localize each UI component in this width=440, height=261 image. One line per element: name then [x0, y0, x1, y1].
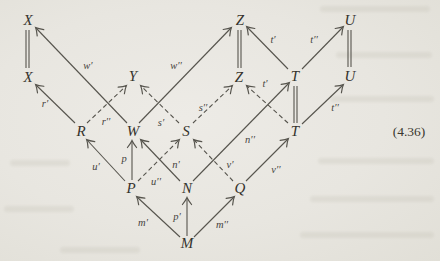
node-q: Q [235, 181, 246, 196]
node-z-mid: Z [235, 70, 243, 85]
node-u-mid: U [345, 69, 356, 84]
node-p: P [126, 181, 135, 196]
label-n-dblprime: n′′ [245, 135, 255, 146]
equality-u [348, 30, 351, 67]
equation-number: (4.36) [393, 125, 426, 139]
node-y: Y [129, 69, 137, 84]
arrow-w-prime [36, 28, 127, 123]
node-s: S [182, 124, 190, 139]
label-n-prime: n′ [172, 160, 180, 171]
node-m: M [181, 236, 194, 251]
node-n: N [182, 181, 192, 196]
arrow-t-dblprime-upper [302, 27, 343, 69]
equality-t [294, 86, 297, 123]
label-w-prime: w′ [83, 61, 92, 72]
label-s-prime: s′ [158, 118, 164, 129]
node-x-mid: X [23, 70, 32, 85]
label-t-dblprime-lower: t′′ [331, 103, 339, 114]
arrow-t-prime-upper [247, 27, 288, 69]
label-t-prime-upper: t′ [270, 35, 275, 46]
label-t-dblprime-upper: t′′ [310, 35, 318, 46]
label-r-prime: r′ [42, 99, 48, 110]
label-v-prime: v′ [227, 160, 234, 171]
node-t-low: T [291, 124, 299, 139]
label-r-dblprime: r′′ [102, 117, 111, 128]
label-w-dblprime: w′′ [170, 61, 182, 72]
node-t-mid: T [291, 69, 299, 84]
node-u-top: U [345, 13, 356, 28]
label-p: p [121, 154, 126, 165]
commutative-diagram-figure: X Z U X Y Z T U R W S T P N Q M w′ w′′ t… [0, 0, 440, 261]
label-s-dblprime: s′′ [199, 103, 208, 114]
label-m-dblprime: m′′ [216, 220, 228, 231]
arrow-v-dblprime [246, 139, 288, 181]
node-r: R [76, 124, 85, 139]
label-t-prime-lower: t′ [262, 79, 267, 90]
equality-x [26, 30, 29, 68]
node-z-top: Z [236, 13, 244, 28]
arrow-w-dblprime [139, 28, 231, 123]
arrow-m-dblprime [194, 197, 234, 237]
label-u-prime: u′ [92, 162, 100, 173]
node-w: W [127, 124, 140, 139]
label-u-dblprime: u′′ [151, 177, 161, 188]
equality-z [238, 30, 241, 68]
label-p-prime: p′ [173, 212, 181, 223]
scanned-page: { "figure": { "equation_number": "(4.36)… [0, 0, 440, 261]
node-x-top: X [23, 13, 32, 28]
label-m-prime: m′ [138, 218, 148, 229]
label-v-dblprime: v′′ [271, 165, 280, 176]
